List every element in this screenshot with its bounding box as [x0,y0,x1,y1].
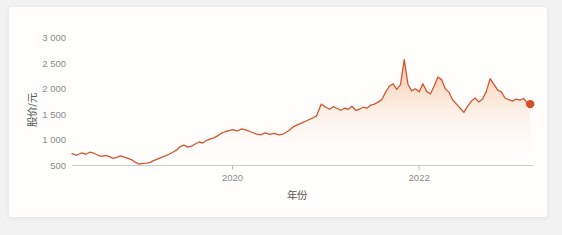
y-axis-tick-label: 2 000 [42,83,66,94]
y-axis-group: 5001 0001 5002 0002 5003 000 [42,32,66,171]
x-axis-group: 20202022 [72,166,533,183]
x-axis-tick-label: 2020 [222,172,243,183]
series-area-fill [72,60,530,166]
y-axis-tick-label: 2 500 [42,58,66,69]
x-axis-tick-label: 2022 [409,172,430,183]
chart-plot-area: 5001 0001 5002 0002 5003 000 20202022 股价… [0,0,562,235]
y-axis-title: 股价/元 [26,92,38,127]
series-end-marker [526,100,534,108]
line-chart-svg: 5001 0001 5002 0002 5003 000 20202022 股价… [0,0,562,235]
x-axis-title: 年份 [287,189,308,201]
y-axis-tick-label: 3 000 [42,32,66,43]
chart-screenshot: 5001 0001 5002 0002 5003 000 20202022 股价… [0,0,562,235]
y-axis-tick-label: 1 000 [42,134,66,145]
y-axis-tick-label: 500 [50,160,66,171]
y-axis-tick-label: 1 500 [42,109,66,120]
